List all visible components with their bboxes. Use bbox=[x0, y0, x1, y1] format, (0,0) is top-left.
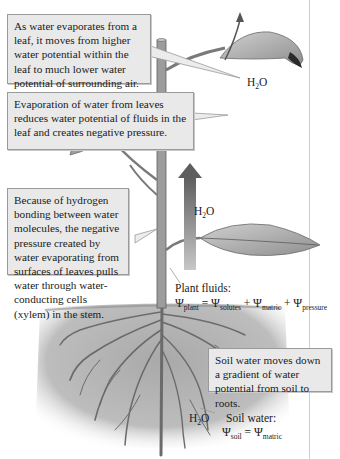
callout-text: Evaporation of water from leaves reduces… bbox=[14, 98, 186, 138]
plant-fluids-title: Plant fluids: bbox=[175, 282, 231, 295]
callout-text: As water evaporates from a leaf, it move… bbox=[14, 20, 139, 89]
lower-right-leaf bbox=[200, 224, 320, 256]
soil-water-title: Soil water: bbox=[226, 412, 276, 425]
h2o-soil-label: H2O bbox=[189, 412, 209, 425]
callout-negative-pressure: Evaporation of water from leaves reduces… bbox=[7, 92, 194, 150]
callout-hydrogen-bonding: Because of hydrogen bonding between wate… bbox=[7, 188, 129, 275]
soil-water-potential-equation: Ψsoil = Ψmatric bbox=[222, 426, 282, 439]
callout-evaporation-leaf: As water evaporates from a leaf, it move… bbox=[7, 14, 151, 84]
plant-water-potential-equation: Ψplant = Ψsolutes + Ψmatric + Ψpressure bbox=[175, 297, 327, 310]
h2o-stem-label: H2O bbox=[194, 205, 214, 218]
callout-soil-water: Soil water moves down a gradient of wate… bbox=[208, 348, 332, 392]
h2o-evaporation-label: H2O bbox=[247, 76, 267, 89]
